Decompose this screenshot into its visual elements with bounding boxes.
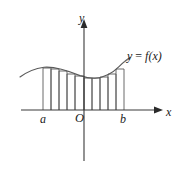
axis-label-x: x: [166, 106, 171, 118]
riemann-sum-diagram: a b O x y y = f(x): [0, 0, 184, 172]
y-axis: [81, 19, 88, 161]
rectangle-strip: [100, 77, 108, 110]
rectangle-strip: [108, 74, 116, 110]
curve-label: y = f(x): [127, 50, 162, 62]
diagram-canvas: [0, 0, 184, 172]
rectangle-strip: [43, 68, 51, 110]
axis-label-upper-limit: b: [120, 113, 126, 125]
curve-label-equals: =: [132, 49, 145, 63]
rectangle-strip: [51, 69, 59, 110]
axis-label-origin: O: [75, 112, 84, 125]
curve-label-rhs: f(x): [145, 49, 162, 63]
rectangle-strip: [67, 74, 75, 110]
rectangle-strip: [84, 78, 92, 110]
axis-label-lower-limit: a: [40, 113, 46, 125]
rectangle-strip: [92, 78, 100, 110]
axis-label-y: y: [79, 12, 84, 24]
x-axis-arrowhead: [154, 107, 163, 114]
rectangle-strip: [59, 71, 67, 110]
rectangle-strip: [116, 69, 124, 110]
rectangle-strip: [75, 76, 84, 110]
